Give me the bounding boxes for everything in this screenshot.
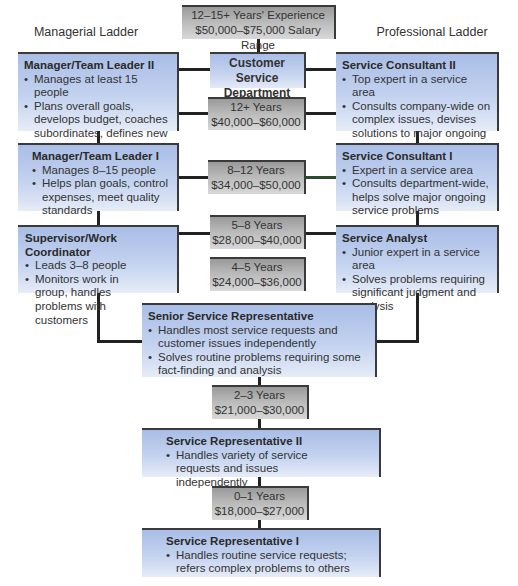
role-bullet: Top expert in a service area [342,73,491,100]
salary-band-2-3: 2–3 Years $21,000–$30,000 [212,385,309,419]
managerial-ladder-label: Managerial Ladder [16,25,156,39]
connector-12yrs-to-sc2 [305,112,336,115]
salary-band-range: $21,000–$30,000 [212,403,307,418]
connector-mgr2-to-head [178,68,210,71]
role-bullet: Solves routine problems requiring some f… [148,351,369,378]
connector-head-to-sc2 [305,68,336,71]
role-bullet: Consults department-wide, helps solve ma… [342,177,491,218]
salary-band-range: $24,000–$36,000 [210,275,304,290]
connector-8yrs-to-sc1 [305,176,336,179]
role-bullet: Monitors work in group, handles problems… [25,273,141,327]
salary-band-12plus: 12+ Years $40,000–$60,000 [208,97,306,130]
role-bullet: Leads 3–8 people [25,259,141,273]
salary-band-range: $18,000–$27,000 [212,504,307,519]
role-title: Supervisor/Work Coordinator [25,232,171,259]
role-bullet: Manages 8–15 people [32,164,171,178]
role-bullet: Helps plan goals, control expenses, meet… [32,177,171,218]
connector-sup-to-5yrs [178,232,210,235]
role-service-consultant-2: Service Consultant II Top expert in a se… [336,52,499,131]
salary-band-8-12: 8–12 Years $34,000–$50,000 [208,160,306,194]
role-bullet: Expert in a service area [342,164,491,178]
role-bullet: Manages at least 15 people [24,73,171,100]
salary-band-years: 8–12 Years [208,163,304,178]
role-manager-team-leader-2: Manager/Team Leader II Manages at least … [18,52,179,131]
connector-mgr1-to-8yrs [178,176,208,179]
salary-band-years: 5–8 Years [210,218,304,233]
department-head-box: Customer Service Department Head [210,52,306,88]
role-title: Manager/Team Leader I [32,150,171,164]
salary-band-5-8: 5–8 Years $28,000–$40,000 [210,215,306,249]
salary-band-years: 12+ Years [208,100,304,115]
role-title: Service Analyst [342,232,491,246]
role-manager-team-leader-1: Manager/Team Leader I Manages 8–15 peopl… [18,143,179,211]
salary-band-range: $34,000–$50,000 [208,178,304,193]
connector-sup-to-senior [97,340,143,343]
role-title: Service Consultant II [342,59,491,73]
role-title: Senior Service Representative [148,310,369,324]
connector-analyst-to-senior [376,340,419,343]
role-bullet: Handles routine service requests; refers… [166,549,361,576]
role-bullet: Handles variety of service requests and … [166,449,353,490]
role-senior-service-representative: Senior Service Representative Handles mo… [142,303,377,377]
salary-band-4-5: 4–5 Years $24,000–$36,000 [210,257,306,291]
role-service-representative-1: Service Representative I Handles routine… [142,528,381,577]
connector-5yrs-to-analyst [305,232,336,235]
role-service-consultant-1: Service Consultant I Expert in a service… [336,143,499,211]
role-supervisor-work-coordinator: Supervisor/Work Coordinator Leads 3–8 pe… [18,225,179,293]
salary-band-range: $40,000–$60,000 [208,115,304,130]
salary-band-years: 0–1 Years [212,489,307,504]
role-bullet: Junior expert in a service area [342,246,491,273]
salary-band-years: 4–5 Years [210,260,304,275]
role-title: Service Representative II [166,435,373,449]
salary-band-years: 2–3 Years [212,388,307,403]
role-title: Service Representative I [166,535,373,549]
role-bullet: Handles most service requests and custom… [148,324,369,351]
professional-ladder-label: Professional Ladder [362,25,502,39]
role-service-representative-2: Service Representative II Handles variet… [142,428,381,477]
role-title: Service Consultant I [342,150,491,164]
salary-band-range: $28,000–$40,000 [210,233,304,248]
top-experience-years: 12–15+ Years' Experience [182,8,334,23]
connector-mgr2-to-12yrs [178,112,208,115]
department-head-line1: Customer Service [210,56,304,86]
top-experience-salary: $50,000–$75,000 Salary Range [182,23,334,53]
role-service-analyst: Service Analyst Junior expert in a servi… [336,225,499,293]
top-experience-box: 12–15+ Years' Experience $50,000–$75,000… [182,5,336,39]
role-title: Manager/Team Leader II [24,59,171,73]
salary-band-0-1: 0–1 Years $18,000–$27,000 [212,486,309,520]
